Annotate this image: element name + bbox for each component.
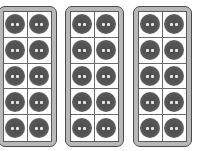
counter-icon: [96, 92, 116, 112]
ten-frame-cell: [139, 115, 163, 141]
counter-hole: [83, 75, 86, 78]
counter-icon: [72, 66, 92, 86]
counter-icon: [72, 92, 92, 112]
ten-frame-grid: [70, 11, 119, 142]
counter-hole: [175, 75, 178, 78]
ten-frame-cell: [95, 115, 119, 141]
counter-hole: [170, 75, 173, 78]
counter-hole: [175, 101, 178, 104]
counter-hole: [35, 49, 38, 52]
counter-hole: [35, 127, 38, 130]
ten-frame-cell: [139, 38, 163, 64]
ten-frame-cell: [71, 89, 95, 115]
counter-hole: [40, 75, 43, 78]
ten-frame-cell: [4, 64, 28, 90]
ten-frame-cell: [71, 64, 95, 90]
counter-hole: [40, 127, 43, 130]
ten-frame-cell: [95, 64, 119, 90]
counter-hole: [83, 101, 86, 104]
counter-icon: [140, 66, 160, 86]
counter-hole: [107, 75, 110, 78]
counter-hole: [83, 49, 86, 52]
counter-icon: [140, 14, 160, 34]
counter-hole: [35, 75, 38, 78]
ten-frame-cell: [139, 64, 163, 90]
counter-hole: [35, 101, 38, 104]
counter-icon: [5, 118, 25, 138]
counter-hole: [16, 127, 19, 130]
counter-hole: [16, 75, 19, 78]
ten-frame-cell: [71, 12, 95, 38]
counter-hole: [16, 101, 19, 104]
counter-hole: [175, 127, 178, 130]
counter-icon: [5, 14, 25, 34]
counter-hole: [102, 101, 105, 104]
counter-icon: [5, 92, 25, 112]
counter-hole: [78, 101, 81, 104]
counter-icon: [72, 118, 92, 138]
counter-hole: [78, 23, 81, 26]
counter-icon: [140, 92, 160, 112]
counter-icon: [29, 66, 49, 86]
ten-frame: [0, 6, 57, 147]
counter-hole: [146, 127, 149, 130]
counter-hole: [83, 127, 86, 130]
ten-frame-cell: [163, 12, 187, 38]
counter-icon: [29, 40, 49, 60]
counter-hole: [102, 49, 105, 52]
ten-frame-cell: [4, 115, 28, 141]
counter-hole: [175, 49, 178, 52]
counter-icon: [5, 40, 25, 60]
counter-hole: [102, 75, 105, 78]
counter-hole: [170, 49, 173, 52]
ten-frame-cell: [163, 115, 187, 141]
counter-icon: [29, 118, 49, 138]
ten-frame-cell: [71, 115, 95, 141]
counter-hole: [83, 23, 86, 26]
counter-hole: [146, 101, 149, 104]
counter-hole: [102, 127, 105, 130]
counter-hole: [107, 127, 110, 130]
counter-hole: [107, 49, 110, 52]
counter-hole: [78, 75, 81, 78]
ten-frame-cell: [163, 89, 187, 115]
counter-icon: [96, 14, 116, 34]
ten-frame-cell: [28, 64, 52, 90]
ten-frame-cell: [71, 38, 95, 64]
counter-hole: [151, 49, 154, 52]
counter-hole: [175, 23, 178, 26]
ten-frame-cell: [4, 12, 28, 38]
counter-hole: [151, 101, 154, 104]
ten-frame-cell: [4, 38, 28, 64]
counter-icon: [29, 92, 49, 112]
counter-hole: [170, 101, 173, 104]
ten-frame-grid: [138, 11, 187, 142]
ten-frame-cell: [139, 12, 163, 38]
counter-icon: [72, 40, 92, 60]
counter-hole: [146, 75, 149, 78]
counter-icon: [5, 66, 25, 86]
ten-frame: [65, 6, 124, 147]
counter-hole: [11, 127, 14, 130]
counter-hole: [170, 23, 173, 26]
ten-frame-cell: [163, 64, 187, 90]
counter-hole: [151, 127, 154, 130]
counter-hole: [151, 75, 154, 78]
counter-icon: [72, 14, 92, 34]
counter-icon: [164, 66, 184, 86]
counter-icon: [96, 66, 116, 86]
counter-hole: [35, 23, 38, 26]
counter-hole: [40, 101, 43, 104]
counter-hole: [78, 127, 81, 130]
ten-frame-cell: [28, 12, 52, 38]
counter-hole: [102, 23, 105, 26]
ten-frame-cell: [163, 38, 187, 64]
counter-icon: [164, 40, 184, 60]
ten-frame-grid: [3, 11, 52, 142]
counter-hole: [146, 23, 149, 26]
counter-icon: [164, 92, 184, 112]
counter-hole: [11, 101, 14, 104]
ten-frame-cell: [28, 115, 52, 141]
counter-icon: [140, 40, 160, 60]
ten-frame-cell: [28, 38, 52, 64]
